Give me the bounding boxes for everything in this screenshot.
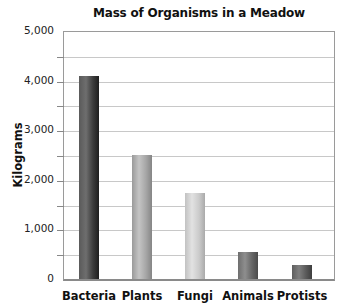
x-tick-label: Animals (218, 289, 278, 303)
gridline (64, 57, 334, 58)
y-tick-mark (57, 255, 64, 256)
y-tick-mark (57, 181, 64, 182)
chart-title: Mass of Organisms in a Meadow (63, 6, 335, 20)
x-tick-label: Bacteria (59, 289, 119, 303)
y-tick-label: 1,000 (4, 222, 54, 234)
x-tick-label: Plants (112, 289, 172, 303)
gridline (64, 82, 334, 83)
y-tick-label: 4,000 (4, 74, 54, 86)
bar-fungi (185, 193, 205, 279)
gridline (64, 106, 334, 107)
y-tick-label: 2,000 (4, 173, 54, 185)
bar-plants (132, 155, 152, 279)
y-tick-mark (57, 131, 64, 132)
y-tick-mark (57, 156, 64, 157)
y-tick-mark (57, 82, 64, 83)
x-tick-label: Fungi (165, 289, 225, 303)
gridline (64, 156, 334, 157)
bar-bacteria (79, 76, 99, 279)
y-tick-mark (57, 106, 64, 107)
gridline (64, 131, 334, 132)
y-tick-mark (57, 230, 64, 231)
y-tick-label: 0 (4, 272, 54, 284)
plot-area (63, 31, 335, 281)
bar-protists (292, 265, 312, 279)
y-tick-mark (57, 206, 64, 207)
x-tick-label: Protists (272, 289, 332, 303)
y-tick-label: 5,000 (4, 24, 54, 36)
y-tick-label: 3,000 (4, 123, 54, 135)
gridline (64, 181, 334, 182)
y-tick-mark (57, 57, 64, 58)
bar-animals (238, 252, 258, 279)
